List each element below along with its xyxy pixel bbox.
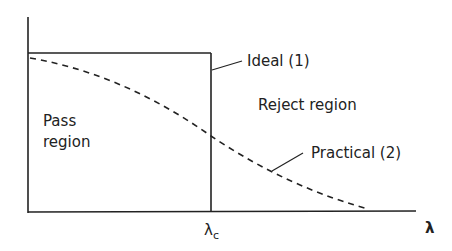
x-axis-label: λ [425,219,435,237]
cutoff-symbol: λ [204,221,213,239]
ideal-label: Ideal (1) [247,52,310,70]
practical-leader-line [272,153,303,171]
reject-region-label: Reject region [258,96,357,114]
pass-region-label-line1: Pass [43,112,76,130]
cutoff-subscript: c [213,229,219,242]
cutoff-wavelength-label: λc [204,221,219,245]
practical-label: Practical (2) [311,144,401,162]
pass-region-label-line2: region [43,133,90,151]
x-axis [28,211,416,212]
ideal-leader-line [212,61,242,70]
